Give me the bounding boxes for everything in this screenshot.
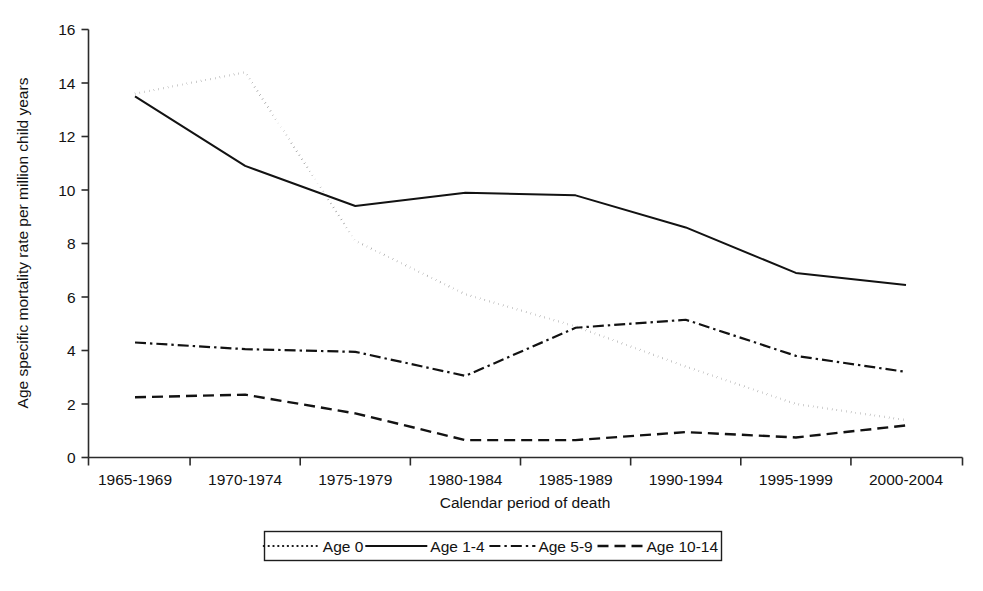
y-tick-label: 6 — [67, 289, 76, 306]
x-tick-label: 1995-1999 — [759, 471, 833, 488]
y-tick-label: 12 — [58, 128, 75, 145]
x-tick-label: 2000-2004 — [869, 471, 944, 488]
x-axis-title: Calendar period of death — [440, 494, 611, 511]
legend-label-age-1-4: Age 1-4 — [430, 538, 485, 555]
data-series-group — [135, 72, 906, 440]
series-line-age-0 — [135, 72, 906, 420]
x-tick-label: 1980-1984 — [428, 471, 503, 488]
chart-figure: 0246810121416 1965-19691970-19741975-197… — [0, 0, 983, 591]
axes-group — [82, 30, 963, 466]
y-tick-label: 4 — [67, 342, 76, 359]
line-chart: 0246810121416 1965-19691970-19741975-197… — [0, 0, 983, 591]
y-tick-label: 8 — [67, 235, 76, 252]
x-tick-label: 1965-1969 — [98, 471, 172, 488]
y-tick-label: 0 — [67, 449, 76, 466]
x-tick-label: 1985-1989 — [539, 471, 613, 488]
series-line-age-10-14 — [135, 395, 906, 440]
y-tick-label: 16 — [58, 21, 75, 38]
x-axis-tick-labels: 1965-19691970-19741975-19791980-19841985… — [98, 471, 944, 488]
legend-label-age-0: Age 0 — [323, 538, 364, 555]
x-tick-label: 1975-1979 — [318, 471, 392, 488]
y-axis-ticks — [82, 30, 89, 458]
x-tick-label: 1990-1994 — [649, 471, 724, 488]
legend-label-age-10-14: Age 10-14 — [647, 538, 719, 555]
chart-legend: Age 0Age 1-4Age 5-9Age 10-14 — [264, 532, 722, 561]
y-tick-label: 14 — [58, 75, 76, 92]
x-tick-label: 1970-1974 — [208, 471, 283, 488]
y-axis-title: Age specific mortality rate per million … — [14, 77, 31, 408]
y-axis-tick-labels: 0246810121416 — [58, 21, 76, 466]
y-tick-label: 10 — [58, 182, 76, 199]
series-line-age-1-4 — [135, 96, 906, 285]
x-axis-ticks — [89, 458, 963, 466]
y-tick-label: 2 — [67, 396, 76, 413]
series-line-age-5-9 — [135, 320, 906, 376]
legend-label-age-5-9: Age 5-9 — [538, 538, 592, 555]
